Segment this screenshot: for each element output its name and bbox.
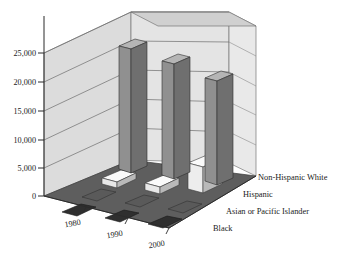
x-axis-label-1990: 1990	[106, 229, 124, 240]
chart-3d-bar: 25,000 20,000 15,000 10,000 5,000 0 1980…	[0, 0, 353, 265]
bar-black-1980	[62, 204, 96, 216]
x-axis-label-2000: 2000	[148, 239, 166, 250]
x-axis-label-1980: 1980	[64, 218, 82, 229]
series-label-hispanic: Hispanic	[243, 190, 273, 199]
chart-canvas: 25,000 20,000 15,000 10,000 5,000 0 1980…	[0, 0, 353, 265]
y-axis-label-0: 0	[32, 192, 36, 201]
series-label-non-hispanic-white: Non-Hispanic White	[258, 173, 328, 182]
y-axis-label-5000: 5,000	[18, 164, 36, 173]
y-axis-label-15000: 15,000	[13, 107, 36, 116]
x-tick-2000	[166, 228, 169, 234]
bar-nonhispanic-white-1980	[119, 39, 147, 173]
bar-nonhispanic-white-1990	[162, 54, 190, 179]
y-axis: 25,000 20,000 15,000 10,000 5,000 0	[13, 16, 44, 201]
y-axis-label-25000: 25,000	[13, 49, 36, 58]
series-label-asian-or-pacific-islander: Asian or Pacific Islander	[226, 207, 309, 216]
y-axis-label-20000: 20,000	[13, 78, 36, 87]
bar-nonhispanic-white-2000	[205, 71, 233, 185]
series-label-black: Black	[213, 224, 233, 233]
y-axis-label-10000: 10,000	[13, 136, 36, 145]
